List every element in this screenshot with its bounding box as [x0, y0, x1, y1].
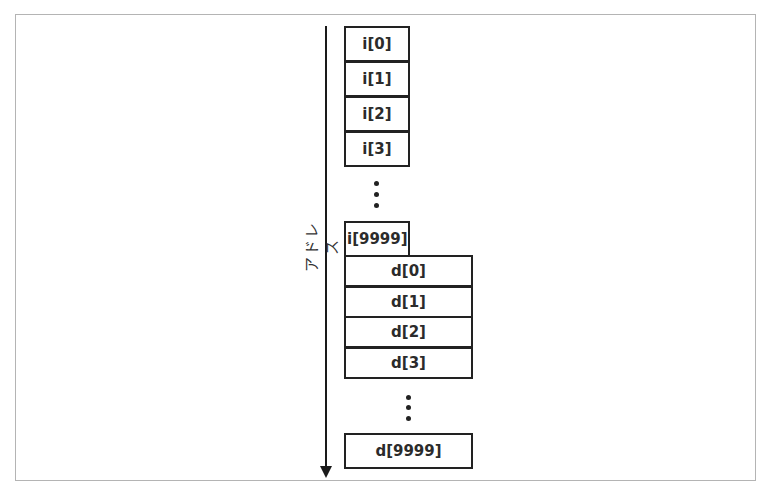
int-array-cell: i[3] [344, 131, 410, 167]
double-array-cell: d[2] [344, 316, 473, 348]
double-array-cell: d[3] [344, 347, 473, 379]
double-array-cell: d[0] [344, 255, 473, 287]
ellipsis-dot-icon [406, 416, 411, 421]
ellipsis-dot-icon [374, 192, 379, 197]
int-array-last-cell: i[9999] [344, 221, 410, 257]
ellipsis-dot-icon [406, 395, 411, 400]
int-array-cell: i[1] [344, 61, 410, 97]
double-array-last-cell: d[9999] [344, 433, 473, 469]
double-array-cell: d[1] [344, 286, 473, 318]
int-array-cell: i[0] [344, 26, 410, 62]
int-array-cell: i[2] [344, 96, 410, 132]
ellipsis-dot-icon [406, 405, 411, 410]
address-axis-label: アドレス [302, 214, 322, 278]
ellipsis-dot-icon [374, 203, 379, 208]
ellipsis-dot-icon [374, 181, 379, 186]
arrow-down-icon [320, 466, 332, 478]
